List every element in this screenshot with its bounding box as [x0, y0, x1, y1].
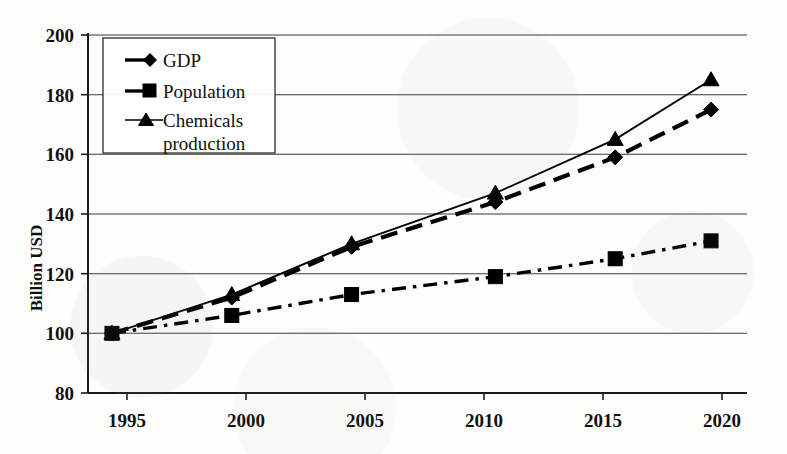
data-point-gdp-2016: [608, 150, 623, 165]
legend: GDP Population Chemicals production: [103, 38, 275, 154]
y-tick-labels: 200 180 160 140 120 100 80: [46, 25, 75, 404]
series-population: [105, 234, 718, 340]
y-tick-label-80: 80: [55, 383, 74, 404]
x-tick-labels: 1995 2000 2005 2010 2015 2020: [108, 410, 741, 431]
x-tick-label-2000: 2000: [227, 410, 265, 431]
data-point-chemicals-production-2020: [703, 72, 719, 86]
legend-label-gdp: GDP: [163, 50, 201, 71]
x-tick-label-2005: 2005: [346, 410, 384, 431]
y-tick-label-160: 160: [46, 144, 75, 165]
data-point-population-1995: [105, 326, 119, 340]
data-point-population-2016: [608, 252, 622, 266]
y-tick-label-180: 180: [46, 85, 75, 106]
data-point-chemicals-production-2016: [607, 131, 623, 145]
legend-label-population: Population: [163, 81, 246, 102]
y-tick-marks: [81, 35, 88, 393]
y-tick-label-140: 140: [46, 204, 75, 225]
data-point-population-2020: [704, 234, 718, 248]
y-tick-label-200: 200: [46, 25, 75, 46]
data-point-gdp-2020: [704, 102, 719, 117]
y-axis-title: Billion USD: [27, 225, 46, 311]
legend-label-chemicals: Chemicals: [163, 110, 243, 131]
line-chart: 200 180 160 140 120 100 80 1995 2000 200…: [0, 0, 787, 454]
y-tick-label-100: 100: [46, 323, 75, 344]
y-tick-label-120: 120: [46, 264, 75, 285]
legend-label-production: production: [163, 133, 246, 154]
x-tick-label-2020: 2020: [703, 410, 741, 431]
data-point-population-2000: [225, 308, 239, 322]
x-tick-label-1995: 1995: [108, 410, 146, 431]
square-icon: [143, 84, 156, 97]
data-point-population-2005: [345, 288, 359, 302]
x-tick-label-2015: 2015: [584, 410, 622, 431]
chart-container: 200 180 160 140 120 100 80 1995 2000 200…: [0, 0, 787, 454]
x-tick-label-2010: 2010: [465, 410, 503, 431]
x-tick-marks: [127, 393, 722, 400]
data-point-population-2011: [488, 270, 502, 284]
